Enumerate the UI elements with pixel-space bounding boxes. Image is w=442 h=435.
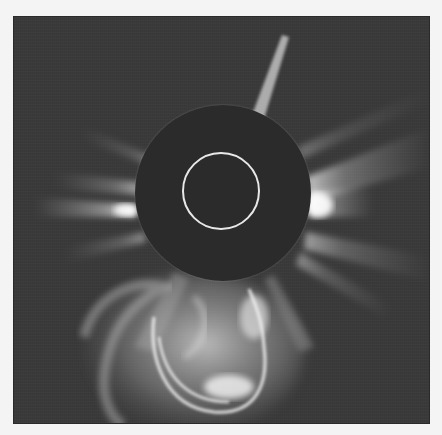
coronagraph-image xyxy=(13,16,430,424)
solar-limb-circle xyxy=(182,152,260,230)
coronal-mass-ejection xyxy=(84,272,304,424)
